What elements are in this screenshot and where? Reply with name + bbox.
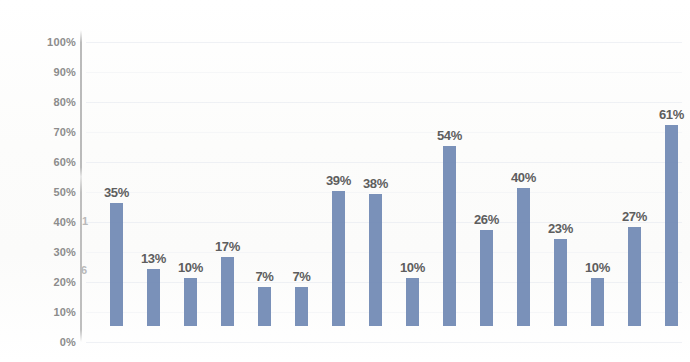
bar-value-label: 7% (292, 269, 310, 284)
bar-value-label: 40% (511, 170, 536, 185)
bar[interactable] (628, 227, 641, 326)
bar-group: 13% (147, 267, 160, 326)
y-axis-tick-label: 0% (28, 336, 76, 348)
plot-area: 35%13%10%17%7%7%39%38%10%54%26%40%23%10%… (86, 42, 682, 342)
y-axis-tick-label: 30% (28, 246, 76, 258)
bar-group: 39% (332, 189, 345, 326)
bar[interactable] (517, 188, 530, 326)
bar-group: 7% (258, 285, 271, 326)
bar-group: 23% (554, 237, 567, 326)
bar[interactable] (591, 278, 604, 326)
bar-value-label: 10% (585, 260, 610, 275)
y-axis-tick-label: 40% (28, 216, 76, 228)
bar-value-label: 26% (474, 212, 499, 227)
bar-value-label: 10% (178, 260, 203, 275)
y-axis-tick-label: 20% (28, 276, 76, 288)
bar-group: 38% (369, 192, 382, 326)
y-axis-tick-labels: 100%90%80%70%60%50%40%30%20%10%0% (24, 42, 76, 342)
bar-group: 26% (480, 228, 493, 326)
bar-value-label: 7% (255, 269, 273, 284)
bar[interactable] (184, 278, 197, 326)
bar-group: 27% (628, 225, 641, 326)
scan-artifact-mark-lower: 6 (81, 264, 87, 276)
bar[interactable] (554, 239, 567, 326)
bar-chart: 35%13%10%17%7%7%39%38%10%54%26%40%23%10%… (0, 0, 690, 362)
y-axis-line (80, 30, 82, 342)
bar-value-label: 35% (104, 185, 129, 200)
bar-value-label: 27% (622, 209, 647, 224)
bar-group: 35% (110, 201, 123, 326)
bar-group: 54% (443, 144, 456, 326)
bar-group: 10% (591, 276, 604, 326)
y-axis-tick-label: 70% (28, 126, 76, 138)
scan-artifact-mark-upper: 1 (82, 215, 88, 227)
y-axis-tick-label: 80% (28, 96, 76, 108)
bar[interactable] (295, 287, 308, 326)
bar-group: 7% (295, 285, 308, 326)
bar[interactable] (147, 269, 160, 326)
y-axis-tick-label: 50% (28, 186, 76, 198)
bar-value-label: 39% (326, 173, 351, 188)
bar-value-label: 61% (659, 107, 684, 122)
bar-group: 10% (184, 276, 197, 326)
bar-value-label: 10% (400, 260, 425, 275)
bar[interactable] (665, 125, 678, 326)
bar-group: 61% (665, 123, 678, 326)
gridline (86, 342, 682, 343)
bar[interactable] (480, 230, 493, 326)
bar-group: 17% (221, 255, 234, 326)
bar[interactable] (369, 194, 382, 326)
y-axis-tick-label: 90% (28, 66, 76, 78)
bar[interactable] (221, 257, 234, 326)
bar[interactable] (110, 203, 123, 326)
bar-value-label: 13% (141, 251, 166, 266)
bar-value-label: 23% (548, 221, 573, 236)
bar-value-label: 17% (215, 239, 240, 254)
bar[interactable] (258, 287, 271, 326)
bar-group: 40% (517, 186, 530, 326)
bar[interactable] (443, 146, 456, 326)
y-axis-tick-label: 100% (28, 36, 76, 48)
bar-value-label: 38% (363, 176, 388, 191)
bar-series: 35%13%10%17%7%7%39%38%10%54%26%40%23%10%… (86, 42, 682, 342)
bar[interactable] (332, 191, 345, 326)
bar-value-label: 54% (437, 128, 462, 143)
bar-group: 10% (406, 276, 419, 326)
y-axis-tick-label: 60% (28, 156, 76, 168)
y-axis-tick-label: 10% (28, 306, 76, 318)
bar[interactable] (406, 278, 419, 326)
